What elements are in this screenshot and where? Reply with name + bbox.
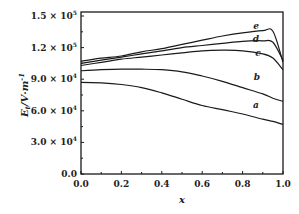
curve-label-c: c (255, 48, 261, 58)
x-tick-label: 1.0 (275, 179, 291, 189)
curve-b (81, 69, 283, 101)
y-tick-label: 9.0 × 104 (31, 72, 77, 84)
y-label-units: /V·m (19, 81, 30, 107)
x-tick-label: 0.4 (154, 179, 170, 189)
curve-label-d: d (253, 34, 260, 44)
curve-label-b: b (254, 72, 260, 82)
x-tick-label: 0.0 (73, 179, 89, 189)
y-tick-label: 0.0 (61, 169, 77, 179)
curve-labels: abcde (253, 21, 261, 110)
line-chart: 0.00.20.40.60.81.0 0.03.0 × 1046.0 × 104… (0, 0, 299, 214)
curve-label-e: e (253, 21, 259, 31)
y-tick-label: 3.0 × 104 (31, 135, 77, 147)
y-label-exp: -1 (17, 73, 26, 81)
y-tick-label: 6.0 × 104 (31, 104, 77, 116)
y-tick-label: 1.2 × 105 (31, 41, 77, 53)
y-axis-ticks: 0.03.0 × 1046.0 × 1049.0 × 1041.2 × 1051… (31, 9, 84, 179)
curve-label-a: a (253, 100, 259, 110)
x-axis-label: x (178, 194, 186, 205)
y-tick-label: 1.5 × 105 (31, 9, 77, 21)
y-axis-label: Et/V·m-1 (17, 73, 32, 118)
x-tick-label: 0.6 (194, 179, 210, 189)
x-tick-label: 0.8 (235, 179, 251, 189)
curve-c (81, 50, 283, 70)
x-tick-label: 0.2 (114, 179, 130, 189)
svg-text:Et/V·m-1: Et/V·m-1 (17, 73, 32, 118)
